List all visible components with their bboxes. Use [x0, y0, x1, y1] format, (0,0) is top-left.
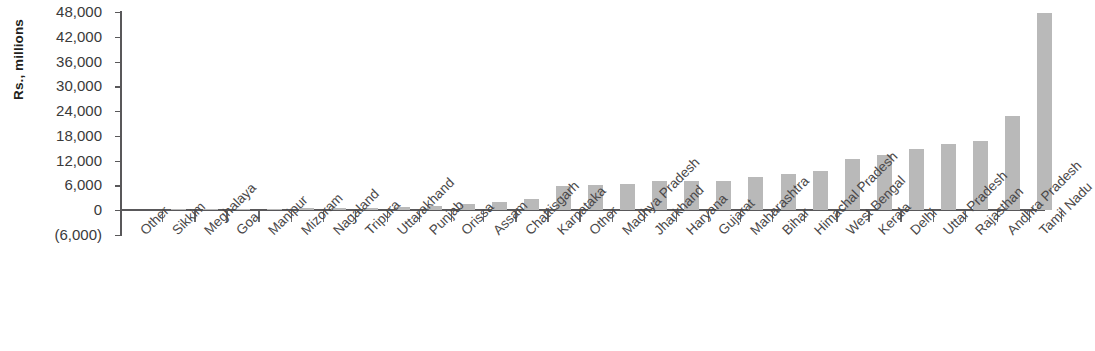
bar	[941, 144, 956, 210]
y-axis-tick-label: 30,000	[56, 78, 102, 93]
y-axis-tick-mark	[115, 37, 121, 38]
y-axis-tick-mark	[115, 185, 121, 186]
y-axis-tick-label: (6,000)	[54, 227, 102, 242]
y-axis-tick-mark	[115, 62, 121, 63]
y-axis-tick-label: 0	[94, 202, 102, 217]
y-axis-tick-label: 12,000	[56, 153, 102, 168]
bar	[620, 184, 635, 210]
y-axis-tick-label: 42,000	[56, 29, 102, 44]
bar	[813, 171, 828, 210]
y-axis-tick-mark	[115, 136, 121, 137]
y-axis-tick-label: 36,000	[56, 54, 102, 69]
y-axis-tick-label: 24,000	[56, 103, 102, 118]
bar	[909, 149, 924, 210]
y-axis-tick-mark	[115, 210, 121, 211]
y-axis-tick-mark	[115, 111, 121, 112]
y-axis-title: Rs., millions	[11, 0, 26, 120]
bar	[171, 209, 186, 210]
y-axis-tick-mark	[115, 161, 121, 162]
y-axis-tick-mark	[115, 12, 121, 13]
y-axis-tick-mark	[115, 86, 121, 87]
y-axis-tick-label: 18,000	[56, 128, 102, 143]
x-axis-category-labels: OtherSikkimMeghalayaGoaManipurMizoramNag…	[120, 222, 1055, 351]
y-axis-tick-labels: 48,00042,00036,00030,00024,00018,00012,0…	[30, 0, 108, 250]
y-axis-line	[120, 11, 122, 236]
y-axis-tick-label: 6,000	[64, 177, 102, 192]
y-axis-tick-label: 48,000	[56, 4, 102, 19]
bar	[267, 209, 282, 210]
